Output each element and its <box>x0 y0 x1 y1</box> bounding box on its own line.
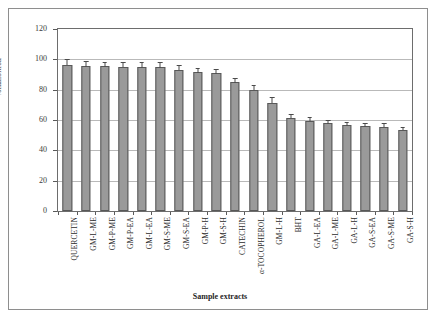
y-tick-label: 80 <box>21 85 47 94</box>
x-tick-mark <box>114 212 115 215</box>
x-tick-label: GA-L-ME <box>331 217 340 249</box>
x-tick-mark <box>77 212 78 215</box>
bar <box>230 82 239 211</box>
bar <box>63 65 72 211</box>
bar-group <box>319 29 338 211</box>
bar <box>249 90 258 211</box>
error-bar-cap <box>102 62 107 63</box>
y-tick-mark <box>53 181 57 182</box>
x-tick-mark <box>393 212 394 215</box>
bar-group <box>375 29 394 211</box>
error-bar-cap <box>326 120 331 121</box>
error-bar-cap <box>400 127 405 128</box>
error-bar-cap <box>214 69 219 70</box>
y-axis-title: %Inhibition <box>0 58 3 96</box>
x-tick-mark <box>375 212 376 215</box>
y-tick-mark <box>53 211 57 212</box>
bar <box>174 70 183 212</box>
y-tick-mark <box>53 90 57 91</box>
bar-group <box>114 29 133 211</box>
bar <box>156 67 165 211</box>
bar-group <box>77 29 96 211</box>
x-tick-mark <box>337 212 338 215</box>
bar-group <box>356 29 375 211</box>
bar <box>100 66 109 211</box>
bar-group <box>244 29 263 211</box>
x-tick-mark <box>58 212 59 215</box>
error-bar-cap <box>65 59 70 60</box>
bar <box>119 67 128 211</box>
error-bar-cap <box>382 123 387 124</box>
x-tick-mark <box>207 212 208 215</box>
x-tick-label: QUERCETIN <box>70 217 79 260</box>
y-tick-label: 120 <box>21 24 47 33</box>
x-tick-mark <box>226 212 227 215</box>
x-tick-mark <box>95 212 96 215</box>
bar <box>398 130 407 211</box>
y-tick-mark <box>53 120 57 121</box>
error-bar-cap <box>289 114 294 115</box>
bar-chart: 020406080100120 %Inhibition QUERCETINGM-… <box>0 0 440 322</box>
bar-group <box>226 29 245 211</box>
error-bar-cap <box>84 61 89 62</box>
error-bar-cap <box>363 123 368 124</box>
bar-group <box>300 29 319 211</box>
error-bar-cap <box>121 62 126 63</box>
x-tick-label: BHT <box>294 217 303 232</box>
bar <box>323 123 332 211</box>
x-tick-label: CATECHIN <box>238 217 247 255</box>
error-bar-cap <box>233 78 238 79</box>
x-tick-mark <box>151 212 152 215</box>
x-tick-label: α-TOCOPHEROL <box>257 217 266 274</box>
error-bar-cap <box>344 122 349 123</box>
x-tick-mark <box>319 212 320 215</box>
x-tick-label: GM-S-H <box>219 217 228 244</box>
x-tick-mark <box>300 212 301 215</box>
y-tick-label: 100 <box>21 54 47 63</box>
error-bar-cap <box>177 65 182 66</box>
bar <box>268 103 277 211</box>
error-bar-cap <box>195 68 200 69</box>
x-axis-title: Sample extracts <box>0 292 440 301</box>
bar <box>212 73 221 211</box>
y-tick-label: 60 <box>21 115 47 124</box>
error-bar-cap <box>158 62 163 63</box>
bar <box>379 127 388 211</box>
bar-group <box>58 29 77 211</box>
bar-group <box>207 29 226 211</box>
x-tick-mark <box>282 212 283 215</box>
x-axis-labels: QUERCETINGM-L-MEGM-P-MEGM-P-EAGM-L-EAGM-… <box>58 217 412 287</box>
error-bar-cap <box>307 117 312 118</box>
x-tick-mark <box>356 212 357 215</box>
x-tick-label: GM-S-EA <box>182 217 191 249</box>
y-tick-label: 20 <box>21 176 47 185</box>
x-tick-mark <box>263 212 264 215</box>
bar-group <box>133 29 152 211</box>
bar <box>305 121 314 211</box>
bars-group <box>58 29 412 211</box>
y-tick-label: 40 <box>21 145 47 154</box>
x-tick-label: GM-L-EA <box>145 217 154 249</box>
x-tick-label: GA-L-EA <box>313 217 322 248</box>
bar <box>286 118 295 211</box>
bar-group <box>188 29 207 211</box>
x-tick-mark <box>244 212 245 215</box>
x-tick-mark <box>188 212 189 215</box>
bar <box>342 125 351 211</box>
bar-group <box>282 29 301 211</box>
x-tick-label: GA-S-ME <box>387 217 396 249</box>
x-tick-mark <box>133 212 134 215</box>
bar-group <box>95 29 114 211</box>
y-tick-mark <box>53 59 57 60</box>
x-tick-label: GM-S-ME <box>163 217 172 250</box>
bar-group <box>170 29 189 211</box>
x-tick-label: GA-L-H <box>350 217 359 243</box>
bar-group <box>151 29 170 211</box>
error-bar-cap <box>251 85 256 86</box>
bar <box>361 126 370 211</box>
x-tick-label: GM-L-H <box>275 217 284 245</box>
x-tick-label: GM-P-ME <box>108 217 117 250</box>
bar-group <box>337 29 356 211</box>
x-tick-mark <box>412 212 413 215</box>
x-axis-ticks <box>58 212 412 216</box>
